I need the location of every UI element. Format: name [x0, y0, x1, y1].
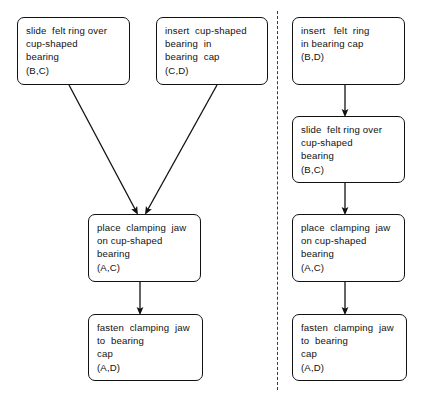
node-insert-felt-ring-in-bearing-cap[interactable]: insert felt ringin bearing cap(B,D) — [292, 17, 405, 85]
node-place-clamping-jaw-on-cup-shaped-bearing[interactable]: place clamping jawon cup-shapedbearing(A… — [88, 214, 201, 282]
node-text-line: (B,C) — [301, 163, 397, 176]
node-slide-felt-ring-over-cup-shaped-bearing[interactable]: slide felt ring overcup-shapedbearing(B,… — [292, 116, 405, 183]
node-text-line: (B,C) — [26, 64, 122, 77]
node-text-line: fasten clamping jaw — [301, 321, 399, 334]
node-text-line: bearing — [301, 247, 397, 260]
node-text-line: bearing cap — [165, 50, 260, 63]
node-text-line: place clamping jaw — [301, 221, 397, 234]
node-text-line: on cup-shaped — [301, 234, 397, 247]
node-text-line: bearing in — [165, 37, 260, 50]
node-fasten-clamping-jaw-to-bearing-cap[interactable]: fasten clamping jawto bearingcap(A,D) — [88, 314, 203, 381]
node-text-line: fasten clamping jaw — [97, 321, 195, 334]
node-text-line: to bearing — [97, 334, 195, 347]
node-text-line: on cup-shaped — [97, 234, 193, 247]
diagram-canvas: slide felt ring overcup-shapedbearing(B,… — [0, 0, 428, 401]
panel-divider — [277, 11, 278, 390]
node-text-line: (A,D) — [97, 361, 195, 374]
node-fasten-clamping-jaw-to-bearing-cap[interactable]: fasten clamping jawto bearingcap(A,D) — [292, 314, 407, 381]
edge-L1-to-L3 — [69, 85, 136, 211]
node-text-line: insert cup-shaped — [165, 24, 260, 37]
node-text-line: cup-shaped — [301, 136, 397, 149]
node-text-line: insert felt ring — [301, 24, 397, 37]
edge-L2-to-L3 — [147, 85, 217, 211]
node-text-line: (C,D) — [165, 64, 260, 77]
node-insert-cup-shaped-bearing-in-bearing-cap[interactable]: insert cup-shapedbearing inbearing cap(C… — [156, 17, 268, 85]
node-text-line: (B,D) — [301, 50, 397, 63]
node-text-line: (A,C) — [301, 261, 397, 274]
node-text-line: bearing — [26, 50, 122, 63]
node-text-line: bearing — [97, 247, 193, 260]
node-text-line: cap — [97, 347, 195, 360]
node-text-line: slide felt ring over — [26, 24, 122, 37]
node-text-line: bearing — [301, 149, 397, 162]
node-text-line: cap — [301, 347, 399, 360]
node-place-clamping-jaw-on-cup-shaped-bearing[interactable]: place clamping jawon cup-shapedbearing(A… — [292, 214, 405, 282]
node-text-line: (A,C) — [97, 261, 193, 274]
node-text-line: to bearing — [301, 334, 399, 347]
node-slide-felt-ring-over-cup-shaped-bearing[interactable]: slide felt ring overcup-shapedbearing(B,… — [17, 17, 130, 85]
node-text-line: place clamping jaw — [97, 221, 193, 234]
node-text-line: cup-shaped — [26, 37, 122, 50]
node-text-line: (A,D) — [301, 361, 399, 374]
node-text-line: in bearing cap — [301, 37, 397, 50]
node-text-line: slide felt ring over — [301, 123, 397, 136]
